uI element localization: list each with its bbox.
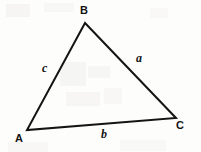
vertex-label-b: B [80, 5, 88, 16]
side-label-a: a [136, 52, 142, 64]
side-label-c: c [42, 62, 47, 74]
vertex-label-a: A [15, 133, 23, 144]
triangle-diagram-canvas: B A C a b c [0, 0, 201, 152]
vertex-label-c: C [176, 120, 184, 131]
side-label-b: b [101, 128, 107, 140]
triangle-polygon [27, 23, 176, 130]
